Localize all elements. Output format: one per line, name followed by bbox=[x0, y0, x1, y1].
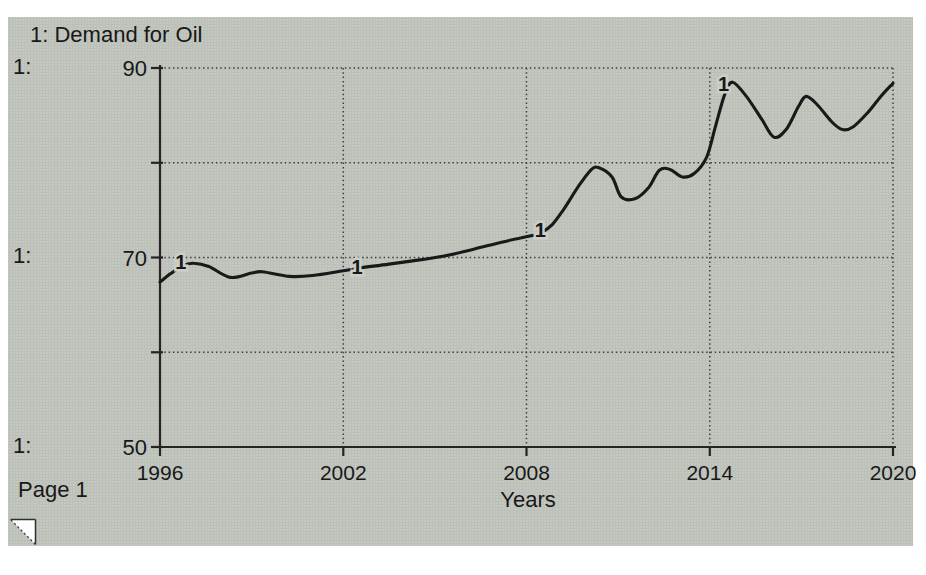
page-number-label: Page 1 bbox=[18, 477, 88, 503]
curve-marker-numeral: 1 bbox=[175, 251, 186, 273]
x-tick-label: 2002 bbox=[320, 461, 367, 484]
x-tick-label: 2008 bbox=[503, 461, 550, 484]
y-tick-label: 70 bbox=[123, 246, 147, 271]
curve-marker-numeral: 1 bbox=[351, 256, 362, 278]
x-tick-label: 2020 bbox=[870, 461, 917, 484]
y-tick-label: 50 bbox=[123, 435, 147, 460]
page-flip-corner-icon[interactable] bbox=[9, 518, 37, 546]
x-tick-label: 1996 bbox=[137, 461, 184, 484]
x-axis-title: Years bbox=[448, 487, 608, 513]
curve-marker-numeral: 1 bbox=[718, 73, 729, 95]
curve-marker-numeral: 1 bbox=[535, 219, 546, 241]
graph-pad-window: 1: Demand for Oil 1: 1: 1: 9070501996200… bbox=[0, 0, 926, 575]
x-tick-label: 2014 bbox=[686, 461, 733, 484]
y-tick-label: 90 bbox=[123, 56, 147, 81]
